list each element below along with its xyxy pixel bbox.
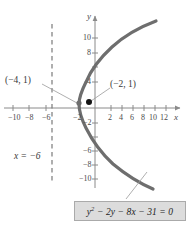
x-tick-label: −10 xyxy=(8,114,21,122)
x-tick-label: 12 xyxy=(160,114,168,122)
y-axis xyxy=(92,16,98,188)
vertex-leader-line xyxy=(42,84,77,103)
x-tick-label: 8 xyxy=(141,114,145,122)
focus-leader-line xyxy=(91,88,110,101)
y-tick-label: 4 xyxy=(87,78,91,86)
focus-point xyxy=(86,99,92,105)
x-axis xyxy=(4,105,180,111)
parabola-figure: −10 −8 −6 −2 2 4 6 8 10 12 10 8 4 −2 −6 … xyxy=(0,0,194,226)
equation-text: y2 − 2y − 8x − 31 = 0 xyxy=(87,205,173,217)
y-tick-label: −8 xyxy=(83,161,92,169)
x-tick-label: 6 xyxy=(130,114,134,122)
focus-label: (−2, 1) xyxy=(110,80,136,90)
y-tick-label: −2 xyxy=(83,119,92,127)
x-tick-label: −8 xyxy=(25,114,34,122)
y-tick-label: 8 xyxy=(87,49,91,57)
x-tick-label: −2 xyxy=(73,114,82,122)
x-tick-label: 2 xyxy=(108,114,112,122)
vertex-label: (−4, 1) xyxy=(5,76,31,86)
x-tick-label: −6 xyxy=(42,114,51,122)
equation-box: y2 − 2y − 8x − 31 = 0 xyxy=(74,201,186,221)
vertex-point xyxy=(76,100,81,105)
x-tick-label: 4 xyxy=(119,114,123,122)
y-tick-label: 10 xyxy=(83,34,91,42)
y-axis-label: y xyxy=(87,12,91,21)
x-axis-label: x xyxy=(174,113,178,122)
y-tick-label: −6 xyxy=(83,147,92,155)
directrix-label: x = −6 xyxy=(14,152,41,162)
x-tick-label: 10 xyxy=(149,114,157,122)
y-tick-label: −10 xyxy=(79,175,92,183)
equation-rest: − 2y − 8x − 31 = 0 xyxy=(94,207,173,217)
